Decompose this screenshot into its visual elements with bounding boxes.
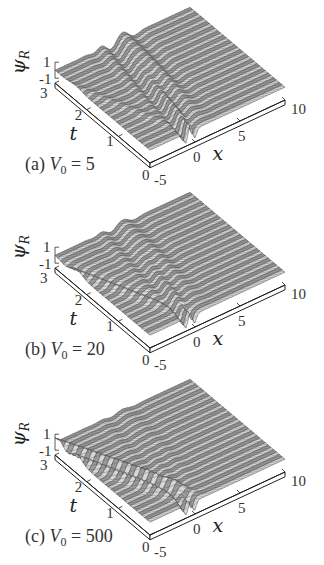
t-tick-label: 3: [40, 457, 48, 473]
z-axis-label: ψR: [7, 50, 32, 74]
panel-caption: (c) V0 = 500: [25, 526, 113, 549]
z-axis-label: ψR: [7, 422, 32, 446]
x-tick-label: -5: [154, 544, 167, 560]
surface-mesh: [55, 192, 285, 335]
x-tick-label: 0: [193, 521, 201, 537]
z-tick-label: -1: [39, 443, 52, 459]
z-tick-label: 1: [43, 426, 51, 442]
figure: 0123t-50510x1-1ψR(a) V0 = 5 0123t-50510x…: [0, 0, 324, 565]
surface-mesh: [55, 379, 285, 522]
x-tick-label: 10: [291, 473, 306, 489]
t-tick-label: 0: [142, 539, 150, 555]
t-axis-label: t: [70, 122, 78, 144]
x-tick-label: 0: [193, 149, 201, 165]
x-tick-label: 10: [291, 101, 306, 117]
t-tick-label: 1: [106, 318, 114, 334]
t-tick-label: 1: [106, 505, 114, 521]
surface-mesh: [55, 7, 285, 150]
panel-caption: (b) V0 = 20: [25, 339, 105, 362]
t-tick-label: 2: [75, 107, 83, 123]
t-tick-label: 0: [142, 167, 150, 183]
t-tick-label: 2: [75, 479, 83, 495]
t-tick-label: 2: [75, 292, 83, 308]
t-axis-label: t: [70, 494, 78, 516]
panel-caption: (a) V0 = 5: [25, 154, 95, 177]
x-tick-label: 0: [193, 334, 201, 350]
t-tick-label: 1: [106, 133, 114, 149]
x-tick-label: -5: [154, 172, 167, 188]
t-tick-label: 3: [40, 270, 48, 286]
x-tick-label: 5: [238, 500, 246, 516]
z-tick-label: 1: [43, 54, 51, 70]
t-tick-label: 0: [142, 352, 150, 368]
x-tick-label: 10: [291, 286, 306, 302]
panel-a: 0123t-50510x1-1ψR(a) V0 = 5: [7, 7, 306, 188]
panel-c: 0123t-50510x1-1ψR(c) V0 = 500: [7, 379, 306, 560]
x-axis-label: x: [213, 327, 224, 349]
t-tick-label: 3: [40, 85, 48, 101]
x-tick-label: 5: [238, 128, 246, 144]
t-axis-label: t: [70, 307, 78, 329]
z-tick-label: -1: [39, 256, 52, 272]
z-axis-bracket: [55, 434, 59, 450]
x-axis-label: x: [213, 514, 224, 536]
z-tick-label: 1: [43, 239, 51, 255]
x-tick-label: -5: [154, 357, 167, 373]
x-axis-label: x: [213, 142, 224, 164]
z-tick-label: -1: [39, 71, 52, 87]
panel-b: 0123t-50510x1-1ψR(b) V0 = 20: [7, 192, 306, 373]
z-axis-label: ψR: [7, 235, 32, 259]
x-tick-label: 5: [238, 313, 246, 329]
